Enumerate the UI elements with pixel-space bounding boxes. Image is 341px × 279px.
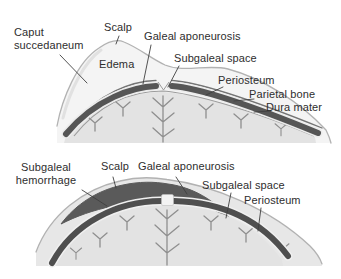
label-subgaleal-space-bottom: Subgaleal space xyxy=(202,179,285,192)
scalp-layers-diagram: Caput succedaneum Scalp Galeal aponeuros… xyxy=(0,0,341,279)
label-periosteum-bottom: Periosteum xyxy=(244,194,301,207)
label-dura-mater: Dura mater xyxy=(266,101,322,114)
label-caput-succedaneum: Caput succedaneum xyxy=(14,26,84,52)
label-edema: Edema xyxy=(99,58,134,71)
label-parietal-bone: Parietal bone xyxy=(249,88,315,101)
label-periosteum-top: Periosteum xyxy=(218,74,275,87)
suture-gap-bottom xyxy=(162,195,174,206)
label-subgaleal-hemorrhage: Subgaleal hemorrhage xyxy=(10,161,82,187)
label-scalp-bottom: Scalp xyxy=(101,160,129,173)
label-galeal-aponeurosis-top: Galeal aponeurosis xyxy=(144,30,241,43)
label-galeal-aponeurosis-bottom: Galeal aponeurosis xyxy=(138,160,235,173)
label-scalp-top: Scalp xyxy=(104,21,132,34)
label-subgaleal-space-top: Subgaleal space xyxy=(174,52,257,65)
